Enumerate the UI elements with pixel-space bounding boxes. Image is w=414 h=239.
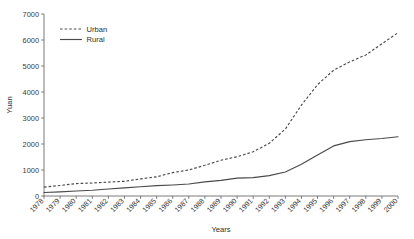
series-urban — [44, 33, 398, 187]
y-tick-label: 3000 — [23, 114, 39, 123]
x-tick-label: 1980 — [60, 196, 78, 214]
x-tick-label: 1985 — [140, 196, 158, 214]
chart-canvas: 0100020003000400050006000700019781979198… — [0, 0, 414, 239]
y-tick-label: 2000 — [23, 140, 39, 149]
x-tick-label: 2000 — [382, 196, 400, 214]
x-tick-label: 1989 — [205, 196, 223, 214]
y-tick-label: 1000 — [23, 166, 39, 175]
x-tick-label: 1990 — [221, 196, 239, 214]
x-tick-label: 1998 — [350, 196, 368, 214]
line-chart: 0100020003000400050006000700019781979198… — [0, 0, 414, 239]
x-tick-label: 1996 — [317, 196, 335, 214]
x-tick-label: 1991 — [237, 196, 255, 214]
x-tick-label: 1999 — [366, 196, 384, 214]
x-tick-label: 1984 — [124, 196, 142, 214]
y-tick-label: 4000 — [23, 88, 39, 97]
x-tick-label: 1978 — [28, 196, 46, 214]
x-tick-label: 1983 — [108, 196, 126, 214]
series-rural — [44, 137, 398, 193]
legend-label-urban: Urban — [87, 25, 108, 34]
x-tick-label: 1997 — [333, 196, 351, 214]
y-tick-label: 5000 — [23, 62, 39, 71]
y-tick-label: 6000 — [23, 36, 39, 45]
x-tick-label: 1987 — [173, 196, 191, 214]
x-tick-label: 1988 — [189, 196, 207, 214]
x-tick-label: 1994 — [285, 196, 303, 214]
x-tick-label: 1986 — [156, 196, 174, 214]
legend-label-rural: Rural — [87, 35, 105, 44]
x-tick-label: 1982 — [92, 196, 110, 214]
x-tick-label: 1979 — [44, 196, 62, 214]
x-tick-label: 1981 — [76, 196, 94, 214]
x-axis-title: Years — [211, 225, 230, 234]
x-tick-label: 1992 — [253, 196, 271, 214]
y-tick-label: 7000 — [23, 10, 39, 19]
x-tick-label: 1993 — [269, 196, 287, 214]
y-axis-title: Yuan — [5, 96, 14, 113]
x-tick-label: 1995 — [301, 196, 319, 214]
